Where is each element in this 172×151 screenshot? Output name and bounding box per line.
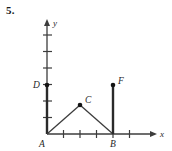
point-label-a: A [38, 139, 45, 149]
x-axis-arrowhead [150, 131, 157, 137]
segment-ac [47, 105, 80, 134]
vertex-dot-d [45, 83, 50, 88]
point-label-f: F [117, 76, 124, 86]
y-axis-label: y [52, 18, 57, 28]
point-label-d: D [32, 80, 40, 90]
vertex-dot-c [78, 103, 83, 108]
point-label-b: B [110, 139, 116, 149]
y-axis-arrowhead [44, 19, 50, 26]
segment-cb [80, 105, 113, 134]
coordinate-plot: y x A B C D F [0, 0, 172, 151]
vertex-dot-f [111, 83, 116, 88]
geometry-figure: 5. y x A [0, 0, 172, 151]
x-axis-label: x [159, 129, 164, 139]
point-label-c: C [85, 95, 92, 105]
